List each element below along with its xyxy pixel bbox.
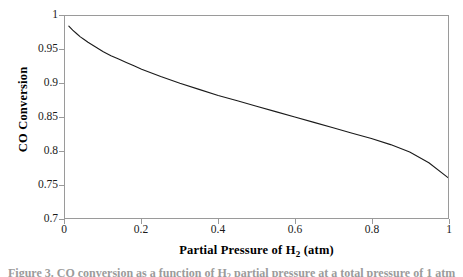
x-axis-title: Partial Pressure of H2 (atm) xyxy=(64,243,449,258)
figure-caption-subscript: 2 xyxy=(227,271,231,277)
xtick-label: 0.2 xyxy=(121,224,161,235)
xtick-label: 1 xyxy=(429,224,463,235)
plot-area xyxy=(64,15,449,219)
y-axis-title: CO Conversion xyxy=(16,35,31,185)
data-curve-svg xyxy=(65,16,448,218)
x-axis-title-post: (atm) xyxy=(300,243,333,257)
figure-caption-post: partial pressure at a total pressure of … xyxy=(231,266,455,277)
x-axis-title-subscript: 2 xyxy=(296,249,301,259)
figure-container: 1 0.95 0.9 0.85 0.8 0.75 0.7 0 0.2 0.4 0… xyxy=(0,0,463,277)
figure-caption-pre: Figure 3. CO conversion as a function of… xyxy=(8,266,227,277)
xtick-label: 0 xyxy=(44,224,84,235)
series-line-co-conversion xyxy=(69,26,448,178)
ytick-label: 0.7 xyxy=(10,213,58,224)
xtick-label: 0.8 xyxy=(352,224,392,235)
xtick-label: 0.6 xyxy=(275,224,315,235)
figure-caption: Figure 3. CO conversion as a function of… xyxy=(8,266,458,277)
ytick-label: 1 xyxy=(10,9,58,20)
x-axis-title-pre: Partial Pressure of H xyxy=(179,243,296,257)
xtick-label: 0.4 xyxy=(198,224,238,235)
